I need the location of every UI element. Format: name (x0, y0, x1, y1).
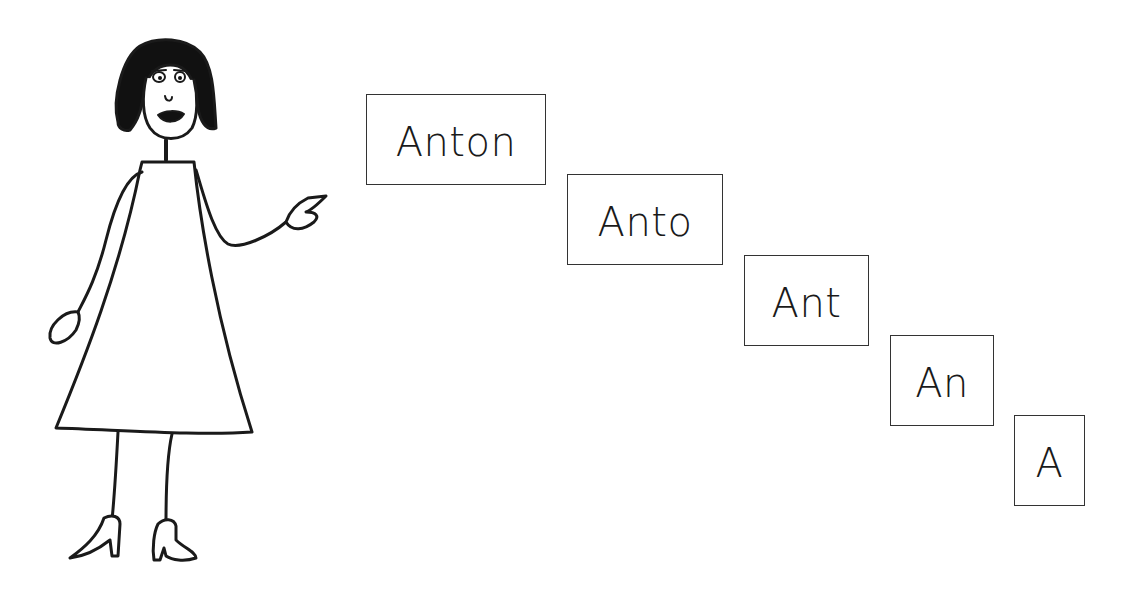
face (143, 78, 196, 139)
left-boot (70, 516, 120, 558)
left-hand (50, 312, 79, 343)
right-arm (196, 170, 286, 245)
right-hand (286, 196, 326, 229)
word-text: An (915, 356, 969, 406)
word-text: A (1036, 436, 1064, 486)
right-leg (166, 434, 172, 522)
word-box-ant: Ant (744, 255, 869, 346)
word-box-an: An (890, 335, 994, 426)
word-box-a: A (1014, 415, 1085, 506)
right-boot (153, 520, 196, 560)
word-box-anton: Anton (366, 94, 546, 185)
word-text: Anton (396, 115, 517, 165)
word-text: Anto (598, 195, 693, 245)
woman-figure-illustration (0, 0, 360, 595)
word-box-anto: Anto (567, 174, 723, 265)
left-leg (112, 432, 118, 520)
word-text: Ant (772, 276, 842, 326)
